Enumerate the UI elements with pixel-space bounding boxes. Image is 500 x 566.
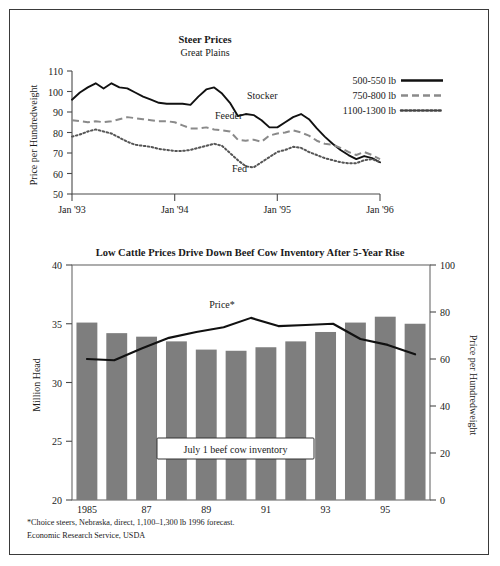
inventory-chart-title: Low Cattle Prices Drive Down Beef Cow In…: [96, 247, 405, 258]
inventory-xtick: 95: [380, 504, 390, 515]
inventory-y2-axis-label: Price per Hundredweight: [468, 335, 479, 436]
inventory-xtick: 93: [321, 504, 331, 515]
inventory-y2-ticks: 100 80 60 40 20 0: [430, 260, 455, 506]
steer-series-1100-1300: [72, 129, 380, 167]
inventory-bar: [255, 347, 276, 500]
inventory-xtick: 1985: [77, 504, 97, 515]
steer-xtick-jan94: Jan '94: [161, 204, 189, 215]
inventory-y2tick-20: 20: [440, 448, 450, 459]
inventory-annotation-price: Price*: [209, 299, 235, 310]
inventory-ytick-40: 40: [52, 260, 62, 271]
steer-y-axis-label: Price per Hundredweight: [28, 85, 39, 186]
steer-annotation-feeder: Feeder: [215, 110, 243, 121]
inventory-y-ticks: 40 35 30 25 20: [52, 260, 72, 506]
steer-ytick-70: 70: [53, 148, 63, 159]
steer-y-ticks: 110 100 90 80 70 60 50: [48, 66, 72, 200]
steer-ytick-110: 110: [48, 66, 63, 77]
inventory-bar: [76, 323, 97, 500]
steer-xtick-jan96: Jan '96: [366, 204, 394, 215]
inventory-bar: [285, 341, 306, 500]
footnote-line-1: *Choice steers, Nebraska, direct, 1,100–…: [27, 518, 235, 527]
steer-ytick-80: 80: [53, 128, 63, 139]
inventory-y2tick-100: 100: [440, 260, 455, 271]
figure-footnotes: *Choice steers, Nebraska, direct, 1,100–…: [27, 518, 235, 540]
steer-xtick-jan95: Jan '95: [263, 204, 291, 215]
inventory-bar-group: [76, 317, 425, 500]
steer-xtick-jan93: Jan '93: [58, 204, 86, 215]
inventory-bar: [345, 323, 366, 500]
legend-label-500-550: 500-550 lb: [352, 75, 396, 86]
inventory-y2tick-40: 40: [440, 401, 450, 412]
figure-canvas: Steer Prices Great Plains Price per Hund…: [0, 0, 500, 566]
inventory-y-axis-label: Million Head: [31, 358, 42, 412]
steer-annotation-stocker: Stocker: [247, 90, 278, 101]
inventory-ytick-20: 20: [52, 495, 62, 506]
steer-axes: [72, 71, 380, 194]
steer-ytick-90: 90: [53, 107, 63, 118]
steer-annotation-fed: Fed: [232, 163, 247, 174]
inventory-ytick-30: 30: [52, 378, 62, 389]
steer-ytick-100: 100: [48, 87, 63, 98]
inventory-ytick-35: 35: [52, 319, 62, 330]
legend-label-1100-1300: 1100-1300 lb: [343, 105, 396, 116]
inventory-xtick: 91: [261, 504, 271, 515]
inventory-callout-label: July 1 beef cow inventory: [184, 444, 288, 455]
inventory-bar: [136, 337, 157, 500]
legend-label-750-800: 750-800 lb: [352, 90, 396, 101]
inventory-y2tick-0: 0: [440, 495, 445, 506]
inventory-x-ticks: 19858789919395: [77, 504, 390, 515]
steer-chart-subtitle: Great Plains: [180, 47, 229, 58]
inventory-y2tick-60: 60: [440, 354, 450, 365]
inventory-bar: [405, 324, 426, 500]
inventory-callout: July 1 beef cow inventory: [157, 438, 314, 459]
steer-x-ticks: Jan '93 Jan '94 Jan '95 Jan '96: [58, 194, 394, 215]
figure-page: Steer Prices Great Plains Price per Hund…: [0, 0, 500, 566]
chart-beef-cow-inventory: Low Cattle Prices Drive Down Beef Cow In…: [31, 247, 479, 515]
steer-ytick-60: 60: [53, 169, 63, 180]
chart-steer-prices: Steer Prices Great Plains Price per Hund…: [28, 34, 443, 215]
inventory-bar: [166, 341, 187, 500]
inventory-y2tick-80: 80: [440, 307, 450, 318]
footnote-line-2: Economic Research Service, USDA: [27, 531, 145, 540]
inventory-bar: [226, 351, 247, 500]
inventory-xtick: 87: [142, 504, 152, 515]
inventory-bar: [315, 332, 336, 500]
steer-legend: 500-550 lb 750-800 lb 1100-1300 lb: [343, 75, 443, 116]
steer-ytick-50: 50: [53, 189, 63, 200]
inventory-bar: [196, 350, 217, 500]
inventory-ytick-25: 25: [52, 436, 62, 447]
steer-chart-title: Steer Prices: [178, 34, 231, 45]
inventory-xtick: 89: [201, 504, 211, 515]
